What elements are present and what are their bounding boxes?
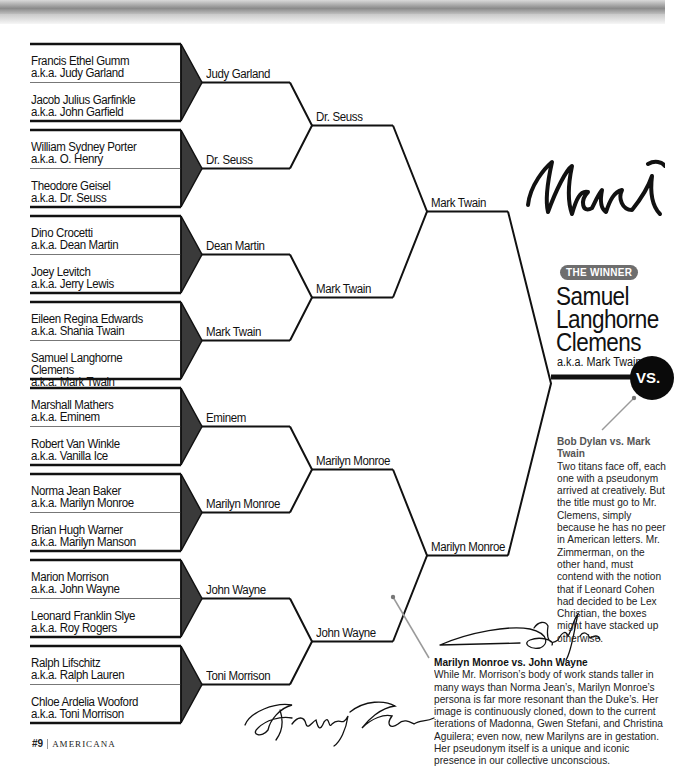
entrant-aka: a.k.a. John Wayne <box>31 583 167 595</box>
entrant-aka: a.k.a. John Garfield <box>31 106 167 118</box>
page-footer: #9AMERICANA <box>32 738 116 749</box>
entrant: Theodore Geisela.k.a. Dr. Seuss <box>31 180 167 204</box>
entrant: Chloe Ardelia Wooforda.k.a. Toni Morriso… <box>31 696 167 720</box>
advancing-name: John Wayne <box>206 583 266 597</box>
entrant: Robert Van Winklea.k.a. Vanilla Ice <box>31 438 167 462</box>
entrant-aka: a.k.a. Dean Martin <box>31 239 167 251</box>
advancing-name: Toni Morrison <box>206 669 270 683</box>
final-matchup-note: Bob Dylan vs. Mark Twain Two titans face… <box>557 435 667 644</box>
entrant: Dino Crocettia.k.a. Dean Martin <box>31 227 167 251</box>
advancing-name: Dr. Seuss <box>206 153 253 167</box>
entrant-real-name: Samuel Langhorne Clemens <box>31 352 167 376</box>
final-matchup-title: Bob Dylan vs. Mark Twain <box>557 435 667 460</box>
advancing-name: Marilyn Monroe <box>431 540 505 554</box>
advancing-name: Marilyn Monroe <box>206 497 280 511</box>
entrant-aka: a.k.a. Judy Garland <box>31 67 167 79</box>
champion-aka: a.k.a. Mark Twain <box>557 355 641 369</box>
entrant-aka: a.k.a. Jerry Lewis <box>31 278 167 290</box>
advancing-name: Mark Twain <box>206 325 261 339</box>
advancing-name: Dr. Seuss <box>316 110 363 124</box>
entrant-aka: a.k.a. Ralph Lauren <box>31 669 167 681</box>
semifinal-matchup-title: Marilyn Monroe vs. John Wayne <box>434 656 666 668</box>
semifinal-matchup-body: While Mr. Morrison’s body of work stands… <box>434 668 663 766</box>
entrant: Norma Jean Bakera.k.a. Marilyn Monroe <box>31 485 167 509</box>
entrant-aka: a.k.a. Roy Rogers <box>31 622 167 634</box>
entrant: Marshall Mathersa.k.a. Eminem <box>31 399 167 423</box>
semifinal-matchup-note: Marilyn Monroe vs. John Wayne While Mr. … <box>434 656 666 767</box>
entrant-aka: a.k.a. Toni Morrison <box>31 708 167 720</box>
entrant: Eileen Regina Edwardsa.k.a. Shania Twain <box>31 313 167 337</box>
entrant: Samuel Langhorne Clemensa.k.a. Mark Twai… <box>31 352 167 388</box>
page-number: #9 <box>32 738 43 749</box>
pin-final <box>602 396 636 430</box>
entrant: Francis Ethel Gumma.k.a. Judy Garland <box>31 55 167 79</box>
entrant: Jacob Julius Garfinklea.k.a. John Garfie… <box>31 94 167 118</box>
entrant: Marion Morrisona.k.a. John Wayne <box>31 571 167 595</box>
section-name: AMERICANA <box>52 739 116 749</box>
entrant-aka: a.k.a. Eminem <box>31 411 167 423</box>
entrant-aka: a.k.a. O. Henry <box>31 153 167 165</box>
entrant-aka: a.k.a. Dr. Seuss <box>31 192 167 204</box>
signature-mark-twain <box>528 162 665 214</box>
advancing-name: Marilyn Monroe <box>316 454 390 468</box>
advancing-name: Mark Twain <box>431 196 486 210</box>
champion-name: Samuel Langhorne Clemens <box>556 285 673 354</box>
entrant-aka: a.k.a. Shania Twain <box>31 325 167 337</box>
entrant-aka: a.k.a. Vanilla Ice <box>31 450 167 462</box>
entrant: Leonard Franklin Slyea.k.a. Roy Rogers <box>31 610 167 634</box>
entrant: Joey Levitcha.k.a. Jerry Lewis <box>31 266 167 290</box>
advancing-name: Dean Martin <box>206 239 265 253</box>
final-matchup-body: Two titans face off, each one with a pse… <box>557 460 666 644</box>
advancing-name: Mark Twain <box>316 282 371 296</box>
pin-semifinal <box>391 595 429 658</box>
winner-badge: THE WINNER <box>560 265 638 280</box>
advancing-name: Eminem <box>206 411 246 425</box>
footer-divider <box>47 739 48 749</box>
entrant-aka: a.k.a. Mark Twain <box>31 376 167 388</box>
advancing-name: Judy Garland <box>206 67 270 81</box>
entrant-aka: a.k.a. Marilyn Manson <box>31 536 167 548</box>
entrant: William Sydney Portera.k.a. O. Henry <box>31 141 167 165</box>
vs-badge: VS. <box>630 356 674 400</box>
advancing-name: John Wayne <box>316 626 376 640</box>
entrant: Brian Hugh Warnera.k.a. Marilyn Manson <box>31 524 167 548</box>
entrant-aka: a.k.a. Marilyn Monroe <box>31 497 167 509</box>
signature-marilyn-monroe <box>245 702 434 746</box>
entrant: Ralph Lifschitza.k.a. Ralph Lauren <box>31 657 167 681</box>
